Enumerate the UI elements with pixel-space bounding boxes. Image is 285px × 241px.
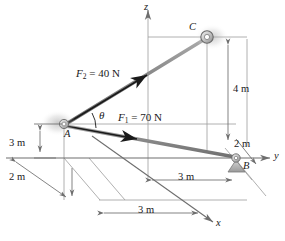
force-label-f2: F2 = 40 N xyxy=(76,68,120,81)
force-label-f1: F1 = 70 N xyxy=(118,112,162,125)
dim-label-3m-vertical: 3 m xyxy=(9,138,25,149)
dim-label-3m-lower: 3 m xyxy=(178,172,194,183)
dim-label-3m-bottom: 3 m xyxy=(138,205,154,216)
cables xyxy=(66,39,235,157)
angle-arc-theta xyxy=(92,113,96,128)
axis-label-y: y xyxy=(274,151,279,162)
force-vector-f1 xyxy=(66,126,137,139)
statics-figure: F2 = 40 N F1 = 70 N θ A B C z y x 3 m 2 … xyxy=(0,0,285,241)
point-label-b: B xyxy=(243,161,249,172)
axis-label-x: x xyxy=(216,218,221,229)
point-label-a: A xyxy=(64,129,70,140)
dim-label-2m-lower-left: 2 m xyxy=(9,172,25,183)
point-label-c: C xyxy=(189,22,196,33)
axis-label-z: z xyxy=(144,2,148,13)
ring-at-a xyxy=(40,110,76,136)
pulley-at-c xyxy=(195,24,229,50)
dim-label-2m-right: 2 m xyxy=(234,139,250,150)
dim-label-4m-right: 4 m xyxy=(233,84,249,95)
angle-label-theta: θ xyxy=(99,110,104,121)
